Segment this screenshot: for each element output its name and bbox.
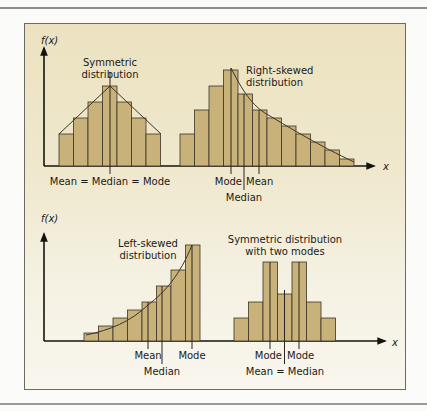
right-median-label: Median: [226, 192, 262, 203]
right-mean-label: Mean: [246, 176, 273, 187]
left-title-1: Left-skewed: [118, 238, 178, 249]
fx-label-top: f(x): [41, 35, 58, 46]
bi-note: Mean = Median: [246, 366, 324, 377]
bottom-axes: f(x) x: [41, 213, 398, 348]
x-label-bottom: x: [391, 337, 398, 348]
symmetric-title-1: Symmetric: [83, 57, 137, 68]
fx-label-bottom: f(x): [41, 213, 58, 224]
symmetric-note: Mean = Median = Mode: [50, 176, 170, 187]
bi-title-1: Symmetric distribution: [228, 234, 342, 245]
left-title-2: distribution: [120, 250, 177, 261]
right-title-2: distribution: [246, 77, 303, 88]
x-label-top: x: [382, 161, 389, 172]
distribution-figure: f(x) x Symmetric distribution Mean = Med…: [0, 0, 427, 411]
left-mode-label: Mode: [178, 350, 205, 361]
left-mean-label: Mean: [134, 350, 161, 361]
bi-mode1-label: Mode: [255, 350, 282, 361]
right-title-1: Right-skewed: [246, 65, 313, 76]
left-median-label: Median: [144, 366, 180, 377]
bi-mode2-label: Mode: [287, 350, 314, 361]
right-mode-label: Mode: [215, 176, 242, 187]
symmetric-title-2: distribution: [82, 69, 139, 80]
bi-title-2: with two modes: [245, 246, 324, 257]
